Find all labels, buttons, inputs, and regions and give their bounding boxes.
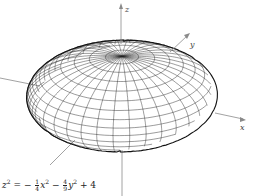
mesh-line xyxy=(97,56,122,150)
ellipsoid-plot: z y x xyxy=(0,0,253,196)
z-axis-arrow xyxy=(119,3,123,9)
eq-term2-sign: − xyxy=(52,180,60,190)
mesh-line xyxy=(122,56,207,105)
y-axis-label: y xyxy=(189,40,195,49)
mesh-line xyxy=(203,86,211,97)
eq-equals: = xyxy=(13,180,21,190)
eq-lhs-exp: 2 xyxy=(7,178,11,185)
eq-term2-exp: 2 xyxy=(73,178,77,185)
ellipsoid-surface xyxy=(27,40,218,152)
eq-term2-den: 9 xyxy=(63,186,67,192)
y-axis xyxy=(170,35,188,52)
eq-term1-fraction: 14 xyxy=(35,179,39,192)
eq-term1-den: 4 xyxy=(35,186,39,192)
eq-term1-exp: 2 xyxy=(45,178,49,185)
x-axis-arrow xyxy=(240,117,246,122)
mesh-line xyxy=(113,56,122,150)
x-axis-label: x xyxy=(240,123,245,132)
mesh-line xyxy=(54,56,122,142)
eq-term1-sign: − xyxy=(24,180,32,190)
z-axis-label: z xyxy=(124,5,130,14)
mesh-line xyxy=(122,56,176,134)
eq-constant: + 4 xyxy=(80,180,96,190)
equation: z2 = − 14x2 − 49y2 + 4 xyxy=(2,178,96,192)
eq-term2-fraction: 49 xyxy=(63,179,67,192)
mesh-line xyxy=(67,56,122,146)
mesh-line xyxy=(122,56,146,146)
mesh-line xyxy=(30,55,122,102)
x-axis xyxy=(215,113,243,119)
mesh-line xyxy=(27,67,195,136)
